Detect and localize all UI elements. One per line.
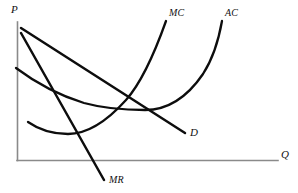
marginal-cost-label: MC — [169, 8, 184, 18]
x-axis-label: Q — [281, 149, 289, 160]
demand-label: D — [190, 127, 198, 138]
y-axis-label: P — [11, 4, 18, 15]
demand-curve — [21, 28, 185, 133]
economics-diagram: P Q MC AC D MR — [0, 0, 298, 193]
marginal-revenue-label: MR — [109, 175, 124, 185]
diagram-canvas — [0, 0, 298, 193]
average-cost-curve — [16, 21, 222, 110]
average-cost-label: AC — [225, 8, 238, 18]
